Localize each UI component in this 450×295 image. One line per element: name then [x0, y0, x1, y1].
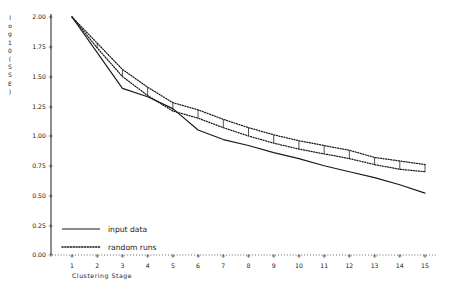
series-input-data — [72, 17, 425, 193]
chart-legend: input datarandom runs — [62, 225, 157, 252]
x-tick-mark: + — [69, 252, 74, 260]
x-tick-mark: + — [195, 252, 200, 260]
random-runs-lower-bound — [72, 17, 425, 172]
y-axis-title-char: o — [8, 22, 12, 29]
y-tick-label: 0.75 — [32, 162, 46, 169]
y-axis-title-char: 0 — [8, 47, 12, 54]
y-axis-title-char: S — [8, 63, 12, 70]
x-tick-label: 11 — [320, 262, 328, 269]
x-tick-label: 2 — [95, 262, 99, 269]
x-tick-mark: + — [145, 252, 150, 260]
y-axis-title-char: l — [9, 14, 11, 21]
x-tick-mark: + — [95, 252, 100, 260]
x-tick-label: 4 — [146, 262, 150, 269]
x-tick-mark: + — [271, 252, 276, 260]
x-tick-mark: + — [246, 252, 251, 260]
y-axis-title-char: ) — [9, 88, 11, 95]
y-tick-label: 1.75 — [32, 43, 46, 50]
x-tick-label: 7 — [221, 262, 225, 269]
y-axis-title-char: g — [8, 30, 12, 38]
x-tick-mark: + — [397, 252, 402, 260]
x-tick-label: 5 — [171, 262, 175, 269]
x-tick-mark: + — [296, 252, 301, 260]
x-tick-label: 3 — [120, 262, 124, 269]
chart-figure: log10(SSE) 0.00+0.25+0.50+0.75+1.00+1.25… — [0, 0, 450, 295]
x-axis-title: Clustering Stage — [72, 272, 132, 280]
x-tick-label: 14 — [396, 262, 404, 269]
y-tick-label: 2.00 — [32, 13, 46, 20]
x-tick-label: 1 — [70, 262, 74, 269]
y-axis-title: log10(SSE) — [8, 14, 12, 95]
y-axis-title-char: E — [8, 80, 12, 87]
y-tick-label: 0.25 — [32, 222, 46, 229]
x-tick-mark: + — [372, 252, 377, 260]
input-data-line — [72, 17, 425, 193]
x-tick-label: 10 — [295, 262, 303, 269]
y-axis-title-char: ( — [9, 55, 11, 62]
y-tick-label: 1.25 — [32, 103, 46, 110]
legend-label: random runs — [108, 243, 157, 252]
y-axis-ticks: 0.00+0.25+0.50+0.75+1.00+1.25+1.50+1.75+… — [32, 13, 53, 259]
x-tick-mark: + — [347, 252, 352, 260]
x-tick-label: 15 — [421, 262, 429, 269]
x-tick-mark: + — [120, 252, 125, 260]
x-tick-label: 13 — [371, 262, 379, 269]
legend-label: input data — [108, 225, 147, 234]
x-axis-ticks: +1+2+3+4+5+6+7+8+9+10+11+12+13+14+15 — [69, 252, 429, 269]
x-tick-label: 6 — [196, 262, 200, 269]
x-tick-mark: + — [321, 252, 326, 260]
x-tick-mark: + — [170, 252, 175, 260]
x-tick-label: 12 — [345, 262, 353, 269]
y-axis-title-char: 1 — [8, 39, 12, 46]
y-axis-title-char: S — [8, 71, 12, 78]
y-tick-label: 0.00 — [32, 251, 46, 258]
x-tick-mark: + — [422, 252, 427, 260]
clustering-sse-line-chart: log10(SSE) 0.00+0.25+0.50+0.75+1.00+1.25… — [0, 0, 450, 295]
y-tick-label: 1.00 — [32, 132, 46, 139]
series-random-runs — [72, 17, 425, 172]
y-tick-label: 0.50 — [32, 192, 46, 199]
y-tick-label: 1.50 — [32, 73, 46, 80]
x-tick-label: 9 — [272, 262, 276, 269]
x-tick-mark: + — [221, 252, 226, 260]
random-runs-upper-bound — [72, 17, 425, 165]
x-tick-label: 8 — [247, 262, 251, 269]
